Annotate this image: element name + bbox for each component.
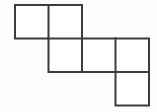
square-r1c1 [49,39,83,73]
square-r1c2 [82,39,116,73]
figure-canvas [0,0,157,112]
square-r2c3 [116,72,150,106]
hexomino-diagram [0,0,157,112]
square-r0c0 [15,5,49,39]
square-r1c3 [116,39,150,73]
square-r0c1 [49,5,83,39]
